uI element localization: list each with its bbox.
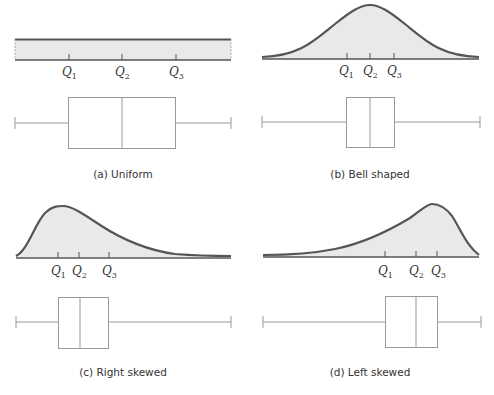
quartile-labels-bell: Q1 Q2 Q3	[339, 64, 402, 80]
panel-right-skewed: Q1 Q2 Q3 (c) Right skewed	[16, 206, 231, 378]
boxplot-uniform	[15, 98, 231, 149]
q2-label: Q2	[409, 264, 424, 280]
q1-label: Q1	[62, 65, 77, 81]
density-left-skewed	[263, 204, 479, 257]
q3-label: Q3	[169, 65, 184, 81]
caption-bell-shaped: (b) Bell shaped	[330, 168, 409, 180]
boxplot-bell	[262, 98, 480, 148]
q3-label: Q3	[387, 64, 402, 80]
q1-label: Q1	[378, 264, 393, 280]
quartile-labels-uniform: Q1 Q2 Q3	[62, 65, 184, 81]
quartile-labels-right-skewed: Q1 Q2 Q3	[51, 264, 117, 280]
boxplot-right-skewed	[16, 298, 231, 349]
density-right-skewed	[16, 206, 231, 258]
caption-uniform: (a) Uniform	[93, 168, 153, 180]
q2-label: Q2	[72, 264, 87, 280]
boxplot-left-skewed	[263, 297, 481, 348]
density-bell	[262, 5, 479, 59]
panel-left-skewed: Q1 Q2 Q3 (d) Left skewed	[263, 204, 481, 378]
caption-right-skewed: (c) Right skewed	[79, 366, 167, 378]
q1-label: Q1	[51, 264, 66, 280]
q3-label: Q3	[102, 264, 117, 280]
q3-label: Q3	[431, 264, 446, 280]
q1-label: Q1	[339, 64, 354, 80]
q2-label: Q2	[363, 64, 378, 80]
caption-left-skewed: (d) Left skewed	[330, 366, 411, 378]
panel-uniform: Q1 Q2 Q3 (a) Uniform	[15, 39, 231, 180]
quartile-labels-left-skewed: Q1 Q2 Q3	[378, 264, 446, 280]
distribution-boxplot-figure: Q1 Q2 Q3 (a) Uniform Q1 Q2 Q3	[0, 0, 494, 395]
q2-label: Q2	[115, 65, 130, 81]
density-uniform	[15, 39, 231, 60]
panel-bell-shaped: Q1 Q2 Q3 (b) Bell shaped	[262, 5, 480, 180]
